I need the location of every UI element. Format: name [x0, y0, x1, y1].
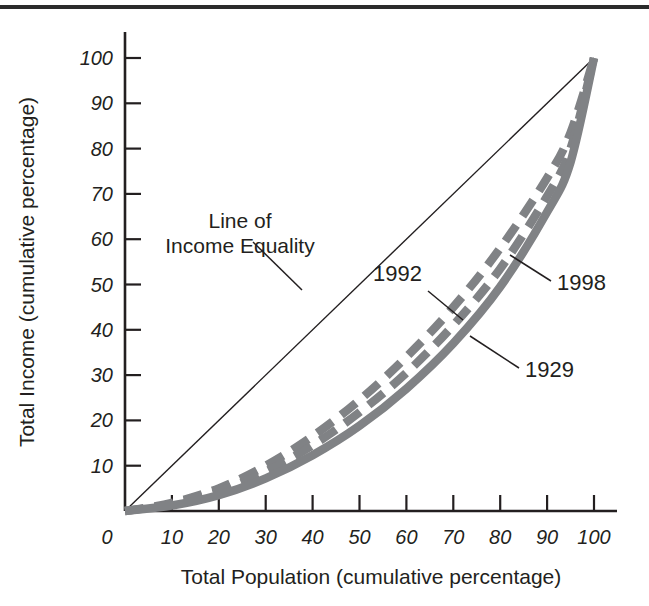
series-label-1992: 1992	[373, 261, 422, 286]
x-tick-label-0: 0	[101, 526, 112, 548]
series-label-1929: 1929	[525, 357, 574, 382]
series-label-1998: 1998	[557, 270, 606, 295]
x-tick-label-50: 50	[348, 526, 370, 548]
y-tick-label-40: 40	[91, 319, 113, 341]
line-of-income-equality	[125, 58, 594, 511]
chart-canvas: 102030405060708090100 010203040506070809…	[0, 0, 649, 606]
x-tick-label-100: 100	[577, 526, 610, 548]
x-axis-tick-labels: 0102030405060708090100	[101, 526, 610, 548]
y-tick-label-60: 60	[91, 228, 113, 250]
equality-annotation-line1: Line of	[208, 209, 271, 232]
lorenz-curve-figure: 102030405060708090100 010203040506070809…	[0, 0, 649, 606]
x-tick-label-40: 40	[301, 526, 323, 548]
y-tick-label-80: 80	[91, 138, 113, 160]
y-axis-ticks	[125, 58, 141, 466]
x-tick-label-20: 20	[207, 526, 230, 548]
x-tick-label-30: 30	[255, 526, 277, 548]
x-tick-label-90: 90	[536, 526, 558, 548]
x-tick-label-10: 10	[161, 526, 183, 548]
y-axis-title: Total Income (cumulative percentage)	[15, 97, 38, 447]
top-rule-divider	[0, 5, 649, 9]
y-tick-label-90: 90	[91, 92, 113, 114]
y-tick-label-50: 50	[91, 274, 113, 296]
y-axis-tick-labels: 102030405060708090100	[80, 47, 113, 477]
y-tick-label-20: 20	[90, 409, 113, 431]
x-axis-title: Total Population (cumulative percentage)	[181, 565, 562, 588]
leader-line-1929	[470, 336, 519, 368]
x-tick-label-70: 70	[442, 526, 464, 548]
x-tick-label-60: 60	[395, 526, 417, 548]
y-tick-label-100: 100	[80, 47, 113, 69]
y-tick-label-70: 70	[91, 183, 113, 205]
equality-annotation-line2: Income Equality	[165, 234, 315, 257]
x-tick-label-80: 80	[489, 526, 511, 548]
y-tick-label-10: 10	[91, 455, 113, 477]
x-axis-ticks	[172, 495, 594, 511]
y-tick-label-30: 30	[91, 364, 113, 386]
